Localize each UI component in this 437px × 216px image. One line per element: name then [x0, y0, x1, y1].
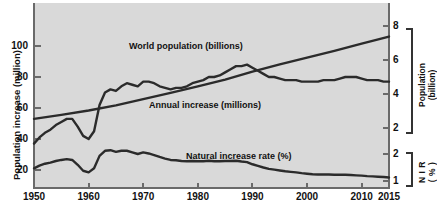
series-label-natural-increase-rate: Natural increase rate (%): [186, 151, 292, 161]
series-label-world-population: World population (billions): [129, 41, 243, 51]
series-label-annual-increase: Annual increase (millions): [149, 100, 261, 110]
